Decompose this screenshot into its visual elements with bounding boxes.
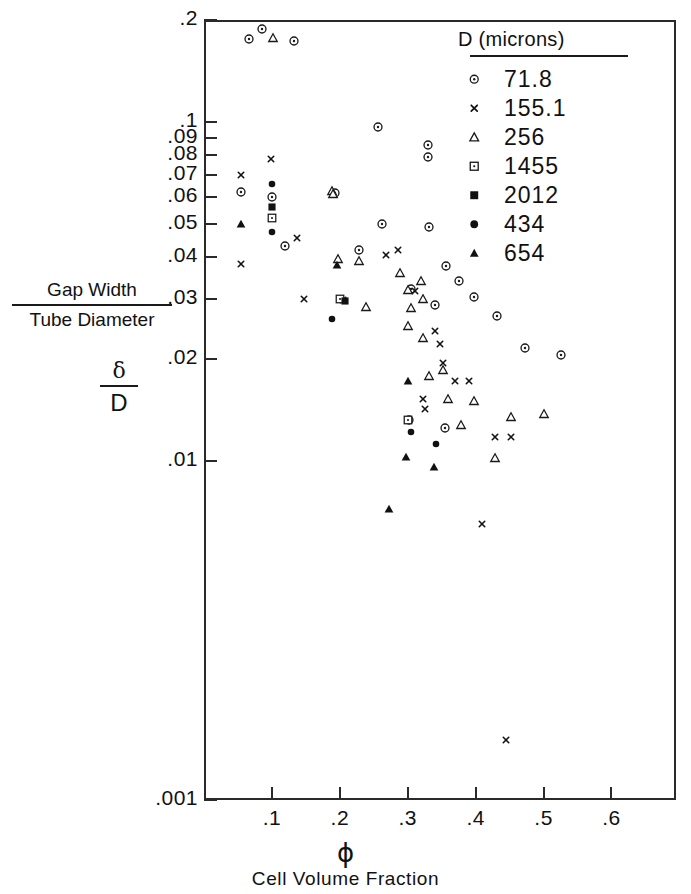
- legend-entry-label: 1455: [496, 153, 632, 180]
- data-point: [406, 426, 417, 437]
- data-point: [266, 201, 277, 212]
- data-point: [279, 240, 291, 252]
- y-axis-title: Gap Width Tube Diameter: [6, 278, 178, 332]
- data-point: [243, 33, 255, 45]
- legend-entry-label: 434: [496, 211, 632, 238]
- data-point: [435, 338, 447, 350]
- x-axis-symbol: ϕ: [0, 838, 691, 868]
- open-circle-dot-icon: [452, 73, 496, 85]
- y-axis-tick-mark: [204, 174, 217, 176]
- data-point: [331, 259, 343, 271]
- y-axis-tick-mark: [204, 121, 217, 123]
- x-axis-tick-label: .5: [524, 806, 564, 830]
- data-point: [380, 249, 392, 261]
- legend-entry-label: 71.8: [496, 66, 632, 93]
- data-point: [402, 375, 414, 387]
- y-axis-tick-mark: [204, 19, 217, 21]
- data-point: [298, 294, 310, 306]
- x-axis-tick-mark: [271, 787, 273, 800]
- data-point: [437, 364, 449, 376]
- data-point: [287, 34, 299, 46]
- data-point: [439, 422, 451, 434]
- x-axis-tick-label: .3: [388, 806, 428, 830]
- data-point: [236, 259, 248, 271]
- data-point: [440, 260, 452, 272]
- y-axis-tick-mark: [204, 196, 217, 198]
- legend-entry: 71.8: [452, 65, 632, 94]
- data-point: [505, 411, 517, 423]
- y-axis-tick-label: .01: [167, 447, 198, 471]
- data-point: [360, 301, 372, 313]
- y-axis-tick-label: .07: [167, 161, 198, 185]
- y-axis-tick-mark: [204, 223, 217, 225]
- data-point: [372, 121, 384, 133]
- data-point: [442, 393, 454, 405]
- y-axis-symbol: δ D: [64, 360, 174, 416]
- data-point: [392, 245, 404, 257]
- legend-title: D (microns): [452, 28, 632, 51]
- data-point: [489, 431, 501, 443]
- x-axis-tick-mark: [610, 787, 612, 800]
- data-point: [291, 232, 303, 244]
- data-point: [491, 310, 503, 322]
- data-point: [415, 275, 427, 287]
- legend-entry: 654: [452, 239, 632, 268]
- x-axis-tick-label: .2: [320, 806, 360, 830]
- x-axis-tick-label: .4: [456, 806, 496, 830]
- data-point: [429, 325, 441, 337]
- legend-entry: 434: [452, 210, 632, 239]
- y-axis-tick-mark: [204, 298, 217, 300]
- legend-rule: [470, 55, 628, 57]
- data-point: [422, 151, 434, 163]
- data-point: [405, 302, 417, 314]
- data-point: [235, 186, 247, 198]
- data-point: [468, 291, 480, 303]
- y-axis-symbol-numerator: δ: [64, 360, 174, 382]
- data-point: [394, 267, 406, 279]
- data-point: [463, 375, 475, 387]
- x-axis-tick-mark: [475, 787, 477, 800]
- y-axis-tick-mark: [204, 460, 217, 462]
- data-point: [267, 226, 278, 237]
- y-axis-tick-mark: [204, 256, 217, 258]
- data-point: [505, 431, 517, 443]
- data-point: [266, 212, 278, 224]
- legend-entry: 155.1: [452, 94, 632, 123]
- data-point: [455, 419, 467, 431]
- y-axis-title-numerator: Gap Width: [6, 278, 178, 302]
- filled-square-icon: [452, 189, 496, 201]
- y-axis-symbol-denominator: D: [64, 390, 174, 416]
- y-axis-tick-mark: [204, 154, 217, 156]
- open-triangle-icon: [452, 131, 496, 143]
- data-point: [402, 320, 414, 332]
- y-axis-tick-label: .2: [179, 6, 198, 30]
- data-point: [554, 349, 566, 361]
- y-axis-tick-label: .04: [167, 243, 198, 267]
- data-point: [427, 461, 439, 473]
- x-axis-tick-mark: [339, 787, 341, 800]
- data-point: [423, 370, 435, 382]
- data-point: [431, 439, 442, 450]
- x-axis-title: Cell Volume Fraction: [0, 868, 691, 890]
- data-point: [382, 503, 394, 515]
- data-point: [376, 218, 388, 230]
- data-point: [340, 296, 351, 307]
- legend: D (microns) 71.8155.125614552012434654: [452, 28, 632, 268]
- x-axis-tick-mark: [543, 787, 545, 800]
- y-axis-tick-label: .001: [155, 786, 198, 810]
- data-point: [537, 408, 549, 420]
- filled-triangle-icon: [452, 247, 496, 259]
- legend-entry-label: 256: [496, 124, 632, 151]
- legend-entry-label: 654: [496, 240, 632, 267]
- scatter-plot-figure: .2.1.09.08.07.06.05.04.03.02.01.001 .1.2…: [0, 0, 691, 894]
- x-axis-tick-label: .1: [252, 806, 292, 830]
- data-point: [489, 452, 501, 464]
- y-axis-tick-mark: [204, 358, 217, 360]
- legend-entry-label: 155.1: [496, 95, 632, 122]
- data-point: [402, 284, 414, 296]
- y-axis-title-denominator: Tube Diameter: [6, 308, 178, 332]
- y-axis-tick-mark: [204, 799, 217, 801]
- cross-icon: [452, 102, 496, 114]
- data-point: [477, 519, 489, 531]
- data-point: [419, 404, 431, 416]
